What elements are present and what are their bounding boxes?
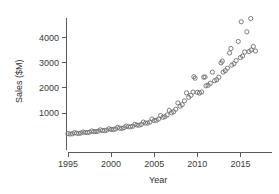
data-point <box>236 39 240 43</box>
y-axis-title: Sales ($M) <box>14 59 24 103</box>
data-point <box>184 91 188 95</box>
data-point <box>253 49 257 53</box>
data-point <box>234 58 238 62</box>
x-tick-label: 2005 <box>144 159 164 169</box>
x-tick-label: 1995 <box>58 159 78 169</box>
data-point <box>249 16 253 20</box>
data-point <box>182 99 186 103</box>
data-point <box>239 20 243 24</box>
y-tick-label: 1000 <box>39 108 59 118</box>
x-tick-label: 2015 <box>230 159 250 169</box>
axis-labels-group: 100020003000400019952000200520102015Year… <box>14 33 250 185</box>
data-point <box>245 30 249 34</box>
data-point <box>210 70 214 74</box>
y-tick-label: 4000 <box>39 33 59 43</box>
plot-area: 100020003000400019952000200520102015Year… <box>0 0 279 194</box>
y-tick-label: 2000 <box>39 83 59 93</box>
data-point <box>251 44 255 48</box>
data-point <box>228 51 232 55</box>
x-axis-title: Year <box>149 175 167 185</box>
y-tick-label: 3000 <box>39 58 59 68</box>
data-point <box>191 90 195 94</box>
sales-scatter-chart: 100020003000400019952000200520102015Year… <box>0 0 279 194</box>
x-tick-label: 2000 <box>101 159 121 169</box>
data-points-group <box>66 16 258 136</box>
data-point <box>243 50 247 54</box>
axes-group <box>62 18 272 157</box>
x-tick-label: 2010 <box>187 159 207 169</box>
data-point <box>229 46 233 50</box>
